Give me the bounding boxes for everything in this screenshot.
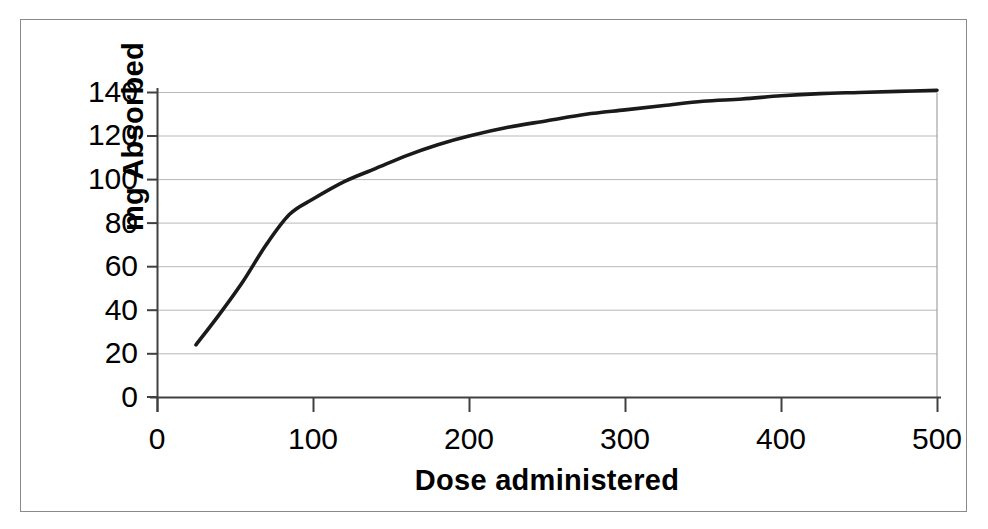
- x-tick-label-200: 200: [419, 424, 519, 454]
- x-tick-label-400: 400: [731, 424, 831, 454]
- y-tick-label-20: 20: [38, 338, 138, 368]
- x-tick-label-0: 0: [107, 424, 207, 454]
- x-tick-label-300: 300: [575, 424, 675, 454]
- y-tick-label-60: 60: [38, 251, 138, 281]
- y-tick-label-40: 40: [38, 295, 138, 325]
- y-axis-title: mg Absorbed: [117, 22, 150, 252]
- x-tick-label-100: 100: [263, 424, 363, 454]
- y-tick-label-0: 0: [38, 382, 138, 412]
- data-series-line: [196, 90, 937, 344]
- x-tick-label-500: 500: [887, 424, 987, 454]
- gridlines: [157, 93, 937, 354]
- x-axis-ticks: [158, 397, 938, 412]
- chart-screenshot: 140 120 100 80 60 40 20 0 0 100 200 300 …: [0, 0, 988, 529]
- x-axis-title: Dose administered: [157, 464, 937, 497]
